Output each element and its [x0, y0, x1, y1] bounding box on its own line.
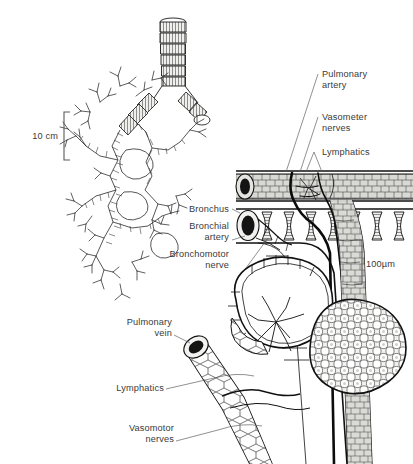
label-pulmonary-vein-line1: Pulmonary: [127, 317, 173, 327]
label-bronchomotor-nerve-line1: Bronchomotor: [169, 249, 229, 259]
label-vasometer-nerves-line1: Vasometer: [322, 112, 367, 122]
label-lymphatics-upper: Lymphatics: [322, 147, 370, 157]
label-vasomotor-nerves-line2: nerves: [146, 434, 175, 444]
label-pulmonary-artery-line2: artery: [322, 80, 347, 90]
alveolar-sac-intact: [310, 299, 406, 393]
scale-label-micro: 100µm: [366, 259, 395, 269]
label-bronchomotor-nerve-line2: nerve: [205, 260, 229, 270]
artery-lumen: [240, 179, 250, 195]
label-pulmonary-vein-line2: vein: [155, 328, 172, 338]
label-bronchial-artery-line1: Bronchial: [189, 221, 229, 231]
label-bronchial-artery-line2: artery: [205, 232, 230, 242]
label-bronchus: Bronchus: [189, 204, 229, 214]
label-vasometer-nerves-line2: nerves: [322, 123, 351, 133]
label-vasomotor-nerves-line1: Vasomotor: [129, 423, 174, 433]
scale-label-macro: 10 cm: [32, 131, 58, 141]
bronchus-lumen: [242, 216, 255, 236]
anatomical-figure: 10 cm: [0, 0, 413, 464]
label-pulmonary-artery-line1: Pulmonary: [322, 69, 368, 79]
label-lymphatics-lower: Lymphatics: [116, 383, 164, 393]
